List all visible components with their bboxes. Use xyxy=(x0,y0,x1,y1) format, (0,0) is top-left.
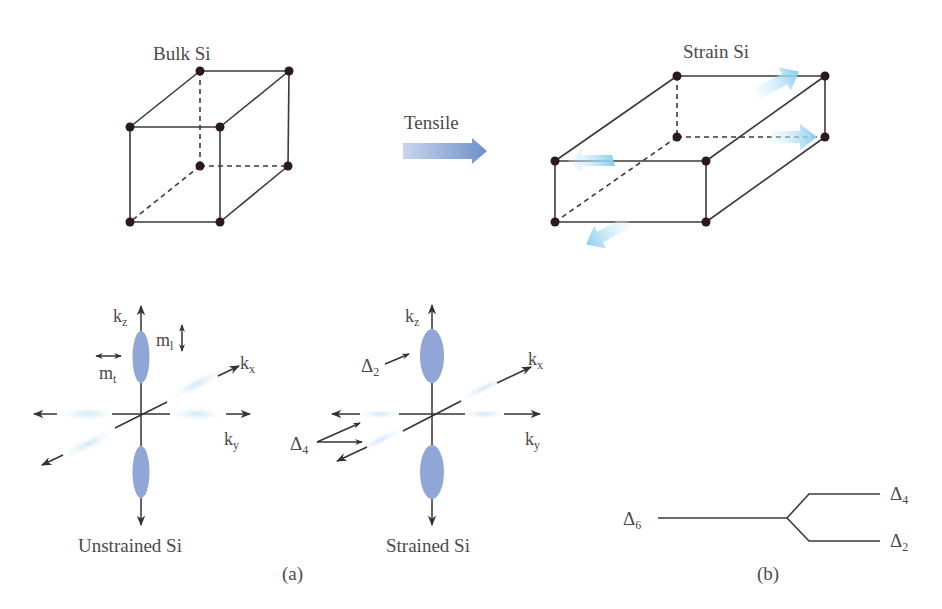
strained-k-space xyxy=(317,305,540,525)
strain-arrow-icon xyxy=(580,210,635,255)
energy-splitting-diagram xyxy=(658,494,880,541)
mt-label: mt xyxy=(99,364,116,385)
strain-si-title: Strain Si xyxy=(683,42,749,61)
strained-box-vertices xyxy=(551,72,830,227)
delta2-label: Δ2 xyxy=(890,531,908,553)
delta4-label-strained: Δ4 xyxy=(290,434,308,456)
kx-label-unstrained: kx xyxy=(240,354,255,375)
delta4-label: Δ4 xyxy=(890,484,908,506)
tensile-arrow-icon xyxy=(403,138,487,164)
kz-label-strained: kz xyxy=(405,307,419,328)
ky-label-unstrained: ky xyxy=(224,430,239,451)
valley-kz-top xyxy=(133,331,150,383)
kx-label-strained: kx xyxy=(528,350,543,371)
valley-delta2-bottom xyxy=(420,445,444,499)
tensile-label: Tensile xyxy=(404,113,459,132)
kz-label-unstrained: kz xyxy=(113,307,127,328)
panel-b-caption: (b) xyxy=(757,564,779,583)
delta2-label-strained: Δ2 xyxy=(361,356,379,378)
ky-label-strained: ky xyxy=(525,430,540,451)
bulk-si-cube xyxy=(126,67,294,227)
panel-a-caption: (a) xyxy=(282,564,303,583)
strain-arrow-icon xyxy=(750,60,805,105)
strain-arrow-icon xyxy=(568,149,615,172)
strained-si-box xyxy=(555,76,825,222)
bulk-si-title: Bulk Si xyxy=(153,44,211,63)
figure-canvas xyxy=(0,0,942,609)
strain-arrow-icon xyxy=(770,124,817,150)
unstrained-si-caption: Unstrained Si xyxy=(78,536,182,555)
valley-delta2-top xyxy=(420,329,444,383)
strain-arrows xyxy=(568,60,817,256)
delta6-label: Δ6 xyxy=(623,509,641,531)
strained-si-caption: Strained Si xyxy=(386,536,470,555)
valley-kz-bottom xyxy=(133,446,150,498)
unstrained-k-space xyxy=(34,306,250,525)
ml-label: ml xyxy=(156,331,173,352)
